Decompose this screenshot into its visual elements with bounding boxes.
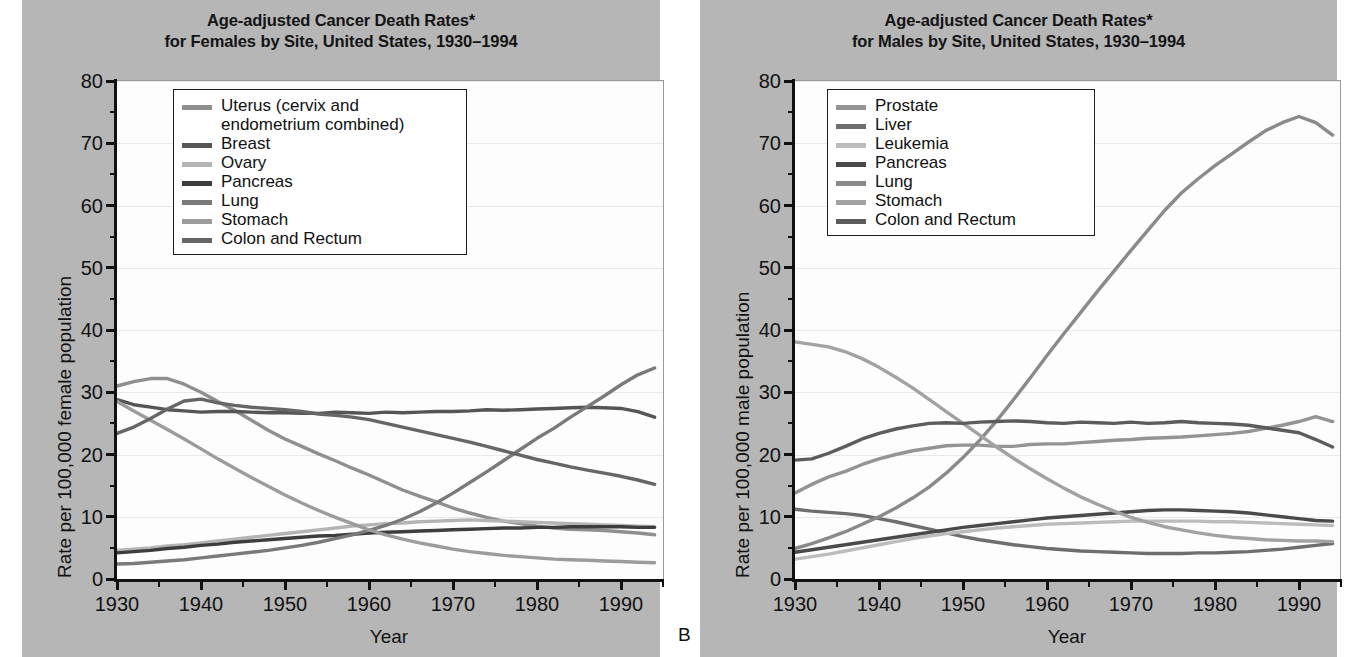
legend-color-swatch (182, 200, 212, 205)
x-tick-label: 1960 (1025, 593, 1070, 616)
legend-item-label: Pancreas (221, 172, 293, 191)
legend-color-swatch (836, 105, 866, 110)
x-tick-label: 1930 (95, 593, 140, 616)
legend-color-swatch (182, 219, 212, 224)
chart-title-males: Age-adjusted Cancer Death Rates* for Mal… (700, 10, 1337, 52)
y-tick-label: 20 (81, 443, 103, 466)
chart-title-line2: for Males by Site, United States, 1930–1… (700, 31, 1337, 52)
legend-males[interactable]: ProstateLiverLeukemiaPancreasLungStomach… (827, 89, 1095, 236)
legend-item-label: Leukemia (875, 134, 949, 153)
legend-item[interactable]: Prostate (836, 96, 1084, 115)
x-axis-title-males: Year (794, 626, 1340, 648)
x-tick-label: 1940 (857, 593, 902, 616)
panel-letter-label: B (678, 624, 691, 646)
x-tick-label: 1930 (773, 593, 818, 616)
y-tick-label: 0 (92, 568, 103, 591)
legend-item[interactable]: Ovary (182, 153, 456, 172)
legend-item-label: Colon and Rectum (221, 229, 362, 248)
y-tick-label: 60 (81, 194, 103, 217)
y-tick-label: 0 (770, 568, 781, 591)
y-axis-line (114, 79, 117, 580)
x-tick-label: 1970 (431, 593, 476, 616)
legend-color-swatch (836, 200, 866, 205)
legend-item[interactable]: Leukemia (836, 134, 1084, 153)
legend-color-swatch (182, 105, 212, 110)
y-tick-label: 70 (759, 132, 781, 155)
legend-color-swatch (836, 143, 866, 148)
legend-color-swatch (182, 181, 212, 186)
y-tick-label: 30 (81, 381, 103, 404)
x-tick-label: 1990 (599, 593, 644, 616)
x-tick-label: 1970 (1109, 593, 1154, 616)
legend-item[interactable]: Stomach (182, 210, 456, 229)
y-tick-label: 40 (759, 319, 781, 342)
x-tick-label: 1990 (1277, 593, 1322, 616)
y-tick-label: 30 (759, 381, 781, 404)
legend-color-swatch (182, 162, 212, 167)
y-tick-label: 80 (759, 70, 781, 93)
series-line (117, 379, 655, 535)
legend-item-label: Stomach (875, 191, 942, 210)
chart-title-line2: for Females by Site, United States, 1930… (22, 31, 660, 52)
y-axis-line (792, 79, 795, 580)
legend-item-label: Lung (875, 172, 913, 191)
y-tick-label: 50 (759, 256, 781, 279)
y-axis-title-males: Rate per 100,000 male population (732, 292, 754, 578)
legend-item-label: Pancreas (875, 153, 947, 172)
x-axis-title-females: Year (116, 626, 662, 648)
chart-title-females: Age-adjusted Cancer Death Rates* for Fem… (22, 10, 660, 52)
legend-item[interactable]: Uterus (cervix and endometrium combined) (182, 96, 456, 134)
y-tick-label: 70 (81, 132, 103, 155)
chart-title-line1: Age-adjusted Cancer Death Rates* (700, 10, 1337, 31)
x-tick-label: 1980 (515, 593, 560, 616)
legend-item[interactable]: Stomach (836, 191, 1084, 210)
chart-panel-females: Age-adjusted Cancer Death Rates* for Fem… (22, 0, 660, 657)
legend-item-label: Stomach (221, 210, 288, 229)
x-tick-label: 1950 (941, 593, 986, 616)
legend-item[interactable]: Colon and Rectum (836, 210, 1084, 229)
legend-item-label: Colon and Rectum (875, 210, 1016, 229)
legend-item-label: Uterus (cervix and endometrium combined) (221, 96, 404, 134)
legend-item-label: Breast (221, 134, 270, 153)
x-tick-label: 1960 (347, 593, 392, 616)
y-tick-label: 20 (759, 443, 781, 466)
legend-item-label: Liver (875, 115, 912, 134)
legend-item[interactable]: Lung (836, 172, 1084, 191)
legend-color-swatch (836, 181, 866, 186)
y-tick-label: 40 (81, 319, 103, 342)
chart-title-line1: Age-adjusted Cancer Death Rates* (22, 10, 660, 31)
y-axis-title-females: Rate per 100,000 female population (54, 276, 76, 578)
chart-panel-males: Age-adjusted Cancer Death Rates* for Mal… (700, 0, 1337, 657)
legend-item[interactable]: Pancreas (182, 172, 456, 191)
series-line (795, 421, 1333, 460)
figure-root: Age-adjusted Cancer Death Rates* for Fem… (0, 0, 1359, 657)
x-axis-line (114, 579, 664, 582)
legend-color-swatch (182, 143, 212, 148)
x-tick-label: 1980 (1193, 593, 1238, 616)
y-tick-label: 10 (81, 505, 103, 528)
legend-item-label: Lung (221, 191, 259, 210)
legend-item[interactable]: Colon and Rectum (182, 229, 456, 248)
legend-item-label: Prostate (875, 96, 938, 115)
y-tick-label: 10 (759, 505, 781, 528)
x-tick-label: 1950 (263, 593, 308, 616)
legend-color-swatch (182, 238, 212, 243)
legend-item[interactable]: Pancreas (836, 153, 1084, 172)
y-tick-label: 80 (81, 70, 103, 93)
legend-item-label: Ovary (221, 153, 266, 172)
legend-color-swatch (836, 124, 866, 129)
x-axis-line (792, 579, 1342, 582)
plot-area-males: 01020304050607080 1930194019501960197019… (794, 80, 1341, 580)
legend-females[interactable]: Uterus (cervix and endometrium combined)… (173, 89, 467, 255)
series-line (795, 417, 1333, 494)
legend-color-swatch (836, 219, 866, 224)
plot-area-females: 01020304050607080 1930194019501960197019… (116, 80, 664, 580)
legend-color-swatch (836, 162, 866, 167)
legend-item[interactable]: Lung (182, 191, 456, 210)
y-tick-label: 60 (759, 194, 781, 217)
x-tick-label: 1940 (179, 593, 224, 616)
y-tick-label: 50 (81, 256, 103, 279)
legend-item[interactable]: Breast (182, 134, 456, 153)
legend-item[interactable]: Liver (836, 115, 1084, 134)
